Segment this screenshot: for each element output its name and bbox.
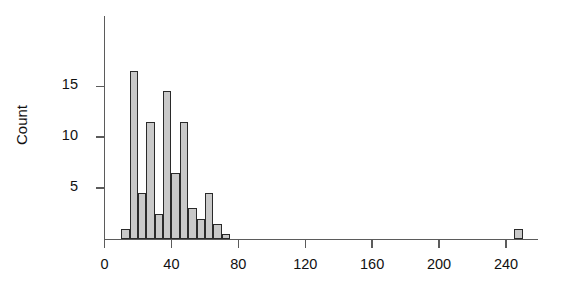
- histogram-chart: Count 51015 04080120160200240: [0, 0, 568, 305]
- histogram-bar: [180, 122, 188, 239]
- histogram-bar: [197, 219, 205, 239]
- histogram-bar: [155, 214, 163, 239]
- histogram-bar: [130, 71, 138, 239]
- histogram-bar: [171, 173, 179, 239]
- histogram-bar: [514, 229, 522, 239]
- histogram-bar: [205, 193, 213, 239]
- histogram-bar: [222, 234, 230, 239]
- plot-area: [0, 0, 568, 305]
- histogram-bar: [213, 224, 221, 239]
- histogram-bar: [146, 122, 154, 239]
- histogram-bar: [121, 229, 129, 239]
- histogram-bar: [188, 208, 196, 239]
- histogram-bar: [163, 91, 171, 239]
- histogram-bar: [138, 193, 146, 239]
